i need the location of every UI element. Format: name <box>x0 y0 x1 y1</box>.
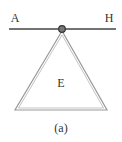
triangle-body <box>15 31 107 110</box>
label-right-end: H <box>105 11 114 25</box>
pivot-icon <box>59 26 66 33</box>
figure-caption: (a) <box>54 121 67 135</box>
diagram-canvas: A H E (a) <box>0 0 122 142</box>
label-body: E <box>57 76 64 90</box>
label-left-end: A <box>11 11 20 25</box>
